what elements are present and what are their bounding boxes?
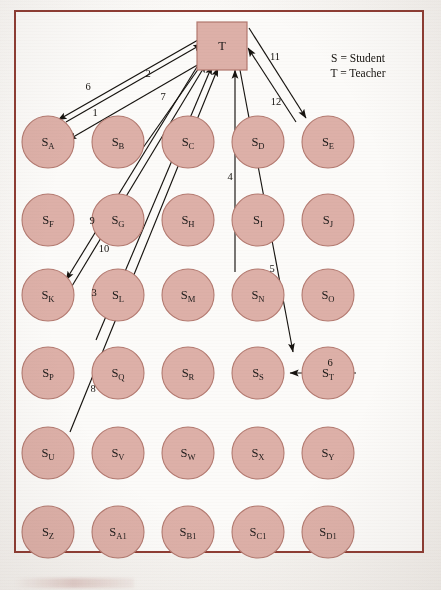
node-label-subscript: R xyxy=(189,372,195,382)
node-sa1[interactable]: SA1 xyxy=(92,506,144,558)
edge-label: 6 xyxy=(327,357,332,368)
node-label-subscript: E xyxy=(329,141,334,151)
node-sg[interactable]: SG xyxy=(92,194,144,246)
node-label-subscript: Y xyxy=(328,452,334,462)
edge-label: 2 xyxy=(145,68,150,79)
edge-label: 9 xyxy=(89,215,94,226)
node-sx[interactable]: SX xyxy=(232,427,284,479)
node-su[interactable]: SU xyxy=(22,427,74,479)
node-sf[interactable]: SF xyxy=(22,194,74,246)
node-sc1[interactable]: SC1 xyxy=(232,506,284,558)
teacher-student-diagram: SASBSCSDSESFSGSHSISJSKSLSMSNSOSPSQSRSSST… xyxy=(0,0,441,590)
node-sc[interactable]: SC xyxy=(162,116,214,168)
edge-label: 12 xyxy=(271,96,282,107)
node-sr[interactable]: SR xyxy=(162,347,214,399)
edge-label: 5 xyxy=(269,263,274,274)
node-teacher[interactable]: T xyxy=(197,22,247,70)
node-label-subscript: N xyxy=(258,294,265,304)
node-ss[interactable]: SS xyxy=(232,347,284,399)
node-label-subscript: B xyxy=(119,141,125,151)
node-label-subscript: H xyxy=(188,219,194,229)
node-sn[interactable]: SN xyxy=(232,269,284,321)
node-sj[interactable]: SJ xyxy=(302,194,354,246)
node-label-subscript: W xyxy=(187,452,196,462)
node-label-subscript: A xyxy=(48,141,55,151)
node-label-subscript: K xyxy=(48,294,55,304)
node-st[interactable]: ST xyxy=(302,347,354,399)
node-label-subscript: A1 xyxy=(116,531,127,541)
node-label-subscript: D1 xyxy=(326,531,337,541)
node-label-subscript: Q xyxy=(118,372,125,382)
node-sp[interactable]: SP xyxy=(22,347,74,399)
node-label-subscript: I xyxy=(260,219,263,229)
edge-label: 1 xyxy=(92,107,97,118)
node-sb1[interactable]: SB1 xyxy=(162,506,214,558)
node-label-subscript: T xyxy=(329,372,335,382)
node-si[interactable]: SI xyxy=(232,194,284,246)
figure-page: SASBSCSDSESFSGSHSISJSKSLSMSNSOSPSQSRSSST… xyxy=(0,0,441,590)
edge-label: 4 xyxy=(227,171,233,182)
node-label-subscript: G xyxy=(118,219,124,229)
node-sd1[interactable]: SD1 xyxy=(302,506,354,558)
node-sd[interactable]: SD xyxy=(232,116,284,168)
node-sb[interactable]: SB xyxy=(92,116,144,168)
node-label-subscript: F xyxy=(49,219,54,229)
edge-label: 7 xyxy=(160,91,165,102)
node-sv[interactable]: SV xyxy=(92,427,144,479)
node-sl[interactable]: SL xyxy=(92,269,144,321)
edge-t-to-sa xyxy=(58,40,198,120)
node-sk[interactable]: SK xyxy=(22,269,74,321)
legend-teacher-line: T = Teacher xyxy=(330,67,385,79)
node-so[interactable]: SO xyxy=(302,269,354,321)
teacher-label: T xyxy=(218,39,226,53)
edge-label: 3 xyxy=(91,287,96,298)
nodes-layer: SASBSCSDSESFSGSHSISJSKSLSMSNSOSPSQSRSSST… xyxy=(22,116,354,558)
node-label-subscript: P xyxy=(49,372,54,382)
node-label-subscript: O xyxy=(328,294,334,304)
node-label-subscript: C1 xyxy=(256,531,266,541)
node-sy[interactable]: SY xyxy=(302,427,354,479)
edge-label: 8 xyxy=(90,383,95,394)
node-sh[interactable]: SH xyxy=(162,194,214,246)
node-label-subscript: X xyxy=(258,452,265,462)
node-label-subscript: D xyxy=(258,141,264,151)
edge-t-to-sk xyxy=(66,62,200,280)
node-label-subscript: M xyxy=(188,294,196,304)
node-label-subscript: L xyxy=(119,294,124,304)
edge-label: 11 xyxy=(270,51,280,62)
node-sm[interactable]: SM xyxy=(162,269,214,321)
node-label-subscript: Z xyxy=(49,531,54,541)
node-label-subscript: V xyxy=(118,452,125,462)
legend: S = Student T = Teacher xyxy=(330,52,385,79)
edge-label: 6 xyxy=(85,81,90,92)
node-sq[interactable]: SQ xyxy=(92,347,144,399)
edge-sg-to-t xyxy=(72,64,206,286)
node-se[interactable]: SE xyxy=(302,116,354,168)
legend-student-line: S = Student xyxy=(331,52,386,64)
node-sz[interactable]: SZ xyxy=(22,506,74,558)
edge-label: 10 xyxy=(99,243,110,254)
node-sw[interactable]: SW xyxy=(162,427,214,479)
node-label-subscript: S xyxy=(259,372,264,382)
node-label-subscript: B1 xyxy=(186,531,196,541)
node-label-subscript: U xyxy=(48,452,55,462)
node-label-subscript: C xyxy=(189,141,195,151)
node-sa[interactable]: SA xyxy=(22,116,74,168)
